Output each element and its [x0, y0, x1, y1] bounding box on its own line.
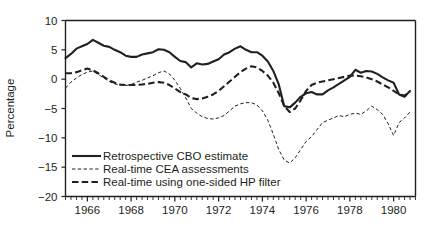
y-tick-label--5: −5: [44, 103, 57, 115]
x-tick-label-1976: 1976: [293, 204, 319, 216]
y-axis-title: Percentage: [4, 79, 16, 138]
y-tick-label-10: 10: [45, 15, 58, 27]
y-tick-label-5: 5: [51, 44, 57, 56]
x-tick-label-1980: 1980: [381, 204, 407, 216]
legend-label-one-sided-hp-filter: Real-time using one-sided HP filter: [103, 176, 281, 188]
y-axis-tick-labels: 1050−5−10−15−20: [38, 15, 58, 203]
x-tick-label-1972: 1972: [206, 204, 232, 216]
legend-label-retrospective-cbo: Retrospective CBO estimate: [103, 150, 248, 162]
x-tick-label-1968: 1968: [118, 204, 144, 216]
chart-legend: Retrospective CBO estimate Real-time CEA…: [72, 150, 281, 188]
x-axis-tick-labels: 19661968197019721974197619781980: [75, 204, 407, 216]
output-gap-line-chart: 1050−5−10−15−20 196619681970197219741976…: [0, 0, 430, 229]
data-series-group: [66, 40, 411, 163]
x-tick-label-1974: 1974: [250, 204, 276, 216]
x-tick-label-1970: 1970: [162, 204, 188, 216]
legend-label-real-time-cea: Real-time CEA assessments: [103, 163, 249, 175]
y-tick-label-0: 0: [51, 73, 57, 85]
x-tick-label-1966: 1966: [75, 204, 101, 216]
y-tick-label--15: −15: [38, 161, 58, 173]
y-tick-label--10: −10: [38, 132, 58, 144]
y-tick-label--20: −20: [38, 191, 58, 203]
chart-container: 1050−5−10−15−20 196619681970197219741976…: [0, 0, 430, 229]
x-tick-label-1978: 1978: [337, 204, 363, 216]
x-axis-minor-ticks: [66, 197, 416, 202]
